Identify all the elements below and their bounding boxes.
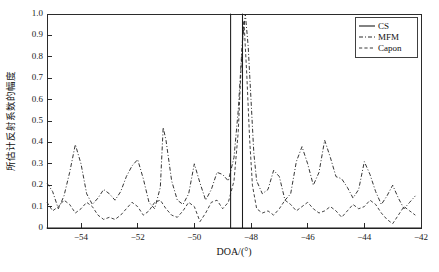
x-axis-title: DOA/(°) xyxy=(216,246,251,258)
y-tick-label: 0.8 xyxy=(32,51,44,61)
y-tick-label: 0.1 xyxy=(32,201,43,211)
x-axis-ticks: −54−52−50−48−46−44−42 xyxy=(74,223,428,242)
chart-figure: 00.10.20.30.40.50.60.70.80.91.0 −54−52−5… xyxy=(0,0,439,272)
chart-legend: CS MFM Capon xyxy=(355,17,417,57)
x-tick-label: −46 xyxy=(301,232,316,242)
y-tick-label: 0.7 xyxy=(32,72,44,82)
legend-label-capon: Capon xyxy=(378,43,402,53)
x-tick-label: −50 xyxy=(187,232,202,242)
y-tick-label: 1.0 xyxy=(32,8,44,18)
y-tick-label: 0.6 xyxy=(32,94,44,104)
y-axis-ticks: 00.10.20.30.40.50.60.70.80.91.0 xyxy=(32,8,52,232)
chart-canvas: 00.10.20.30.40.50.60.70.80.91.0 −54−52−5… xyxy=(0,0,439,272)
y-tick-label: 0 xyxy=(39,222,44,232)
x-tick-label: −42 xyxy=(414,232,428,242)
x-tick-label: −54 xyxy=(74,232,89,242)
y-axis-title: 所估计反射系数的幅度 xyxy=(5,71,16,171)
y-tick-label: 0.9 xyxy=(32,29,44,39)
y-axis-title-text: 所估计反射系数的幅度 xyxy=(5,71,16,171)
legend-label-mfm: MFM xyxy=(378,32,399,42)
x-tick-label: −48 xyxy=(244,232,259,242)
x-tick-label: −44 xyxy=(357,232,372,242)
y-tick-label: 0.2 xyxy=(32,179,43,189)
x-tick-label: −52 xyxy=(131,232,145,242)
x-axis-title-text: DOA/(°) xyxy=(216,246,251,258)
legend-label-cs: CS xyxy=(378,21,389,31)
y-tick-label: 0.5 xyxy=(32,115,44,125)
y-tick-label: 0.4 xyxy=(32,136,44,146)
y-tick-label: 0.3 xyxy=(32,158,44,168)
